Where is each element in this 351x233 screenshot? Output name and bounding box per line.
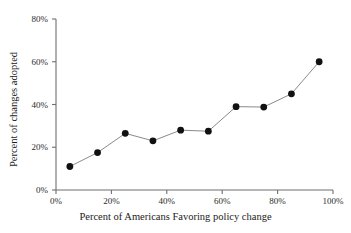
data-line: [70, 62, 319, 167]
x-axis-ticks: [56, 190, 333, 194]
data-point: [122, 130, 129, 137]
data-point: [260, 104, 267, 111]
y-axis-tick-label: 80%: [0, 14, 48, 24]
data-point: [316, 58, 323, 65]
x-axis-tick-label: 80%: [269, 196, 286, 206]
x-axis-tick-label: 100%: [323, 196, 344, 206]
data-point: [233, 103, 240, 110]
data-point: [150, 137, 157, 144]
y-axis-ticks: [52, 19, 56, 190]
x-axis-tick-label: 60%: [214, 196, 231, 206]
data-point: [66, 163, 73, 170]
x-axis-title: Percent of Americans Favoring policy cha…: [0, 211, 351, 222]
x-axis-tick-label: 0%: [50, 196, 62, 206]
x-axis-tick-label: 20%: [103, 196, 120, 206]
data-point: [177, 127, 184, 134]
data-point-markers: [66, 58, 322, 170]
data-point: [205, 128, 212, 135]
x-axis-tick-label: 40%: [159, 196, 176, 206]
y-axis-title: Percent of changes adopted: [8, 35, 19, 185]
chart-container: 0%20%40%60%80% 0%20%40%60%80%100% Percen…: [0, 0, 351, 233]
data-point: [94, 149, 101, 156]
data-point: [288, 90, 295, 97]
y-axis-tick-label: 0%: [0, 185, 48, 195]
